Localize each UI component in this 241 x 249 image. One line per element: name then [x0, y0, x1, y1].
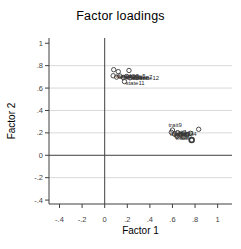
y-tick-label: .2 [37, 128, 43, 137]
data-point-marker [112, 67, 116, 71]
x-tick-label: .8 [192, 215, 198, 224]
x-tick-label: -.2 [78, 215, 87, 224]
data-point-marker [196, 127, 200, 131]
y-tick-label: -.4 [34, 196, 43, 205]
y-tick-label: 0 [39, 151, 43, 160]
factor-loadings-figure: Factor loadings Factor 2 Factor 1 1.8.6.… [0, 0, 241, 249]
y-tick-label: .8 [37, 61, 43, 70]
plot-area: 1.8.6.4.20-.2-.4-.4-.20.2.4.6.81state1st… [0, 0, 241, 249]
y-tick-label: -.2 [34, 173, 43, 182]
x-tick-label: -.4 [55, 215, 64, 224]
y-tick-label: 1 [39, 39, 43, 48]
y-tick-label: .4 [37, 106, 43, 115]
point-label: state11 [125, 80, 145, 86]
x-tick-label: 0 [103, 215, 107, 224]
y-tick-label: .6 [37, 84, 43, 93]
x-tick-label: 1 [216, 215, 220, 224]
point-label: trait9 [168, 122, 182, 128]
x-tick-label: .2 [124, 215, 130, 224]
x-tick-label: .4 [147, 215, 153, 224]
x-tick-label: .6 [169, 215, 175, 224]
